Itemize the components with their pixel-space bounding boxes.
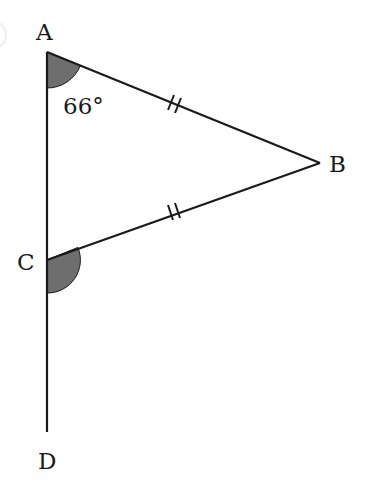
line-cb xyxy=(47,163,320,260)
point-label-c: C xyxy=(17,249,35,275)
edge-artifact xyxy=(0,21,6,49)
triangle-diagram: A B C D 66° xyxy=(0,0,379,483)
angle-a-sector xyxy=(47,52,80,88)
angle-a-label: 66° xyxy=(63,93,104,119)
point-label-d: D xyxy=(38,448,56,474)
point-label-a: A xyxy=(35,19,53,45)
point-label-b: B xyxy=(329,151,346,177)
